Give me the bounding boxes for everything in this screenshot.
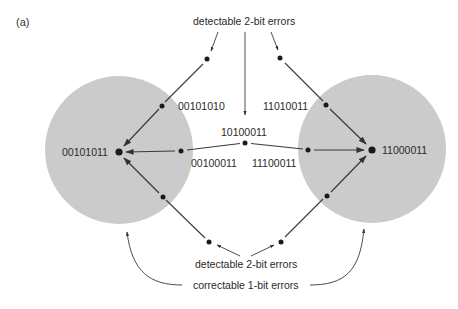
neighbor-left-middle-label: 00100011 <box>191 158 237 169</box>
edge-center-right <box>251 144 303 150</box>
node-left-middle <box>179 149 184 154</box>
node-right-middle <box>306 148 311 153</box>
edge-bottomright-outer <box>285 199 323 237</box>
annotation-bottom-correctable: correctable 1-bit errors <box>193 280 299 291</box>
node-center <box>243 141 248 146</box>
node-left-upper <box>160 104 165 109</box>
annotation-top-detectable: detectable 2-bit errors <box>193 16 295 27</box>
pointer-correctable-right <box>310 229 364 285</box>
node-outer-topleft <box>205 57 210 62</box>
node-outer-topright <box>278 56 283 61</box>
neighbor-right-upper-label: 11010011 <box>263 101 308 112</box>
edge-center-left <box>187 144 240 151</box>
codeword-left-label: 00101011 <box>62 147 108 158</box>
node-right-lower <box>325 194 330 199</box>
panel-label: (a) <box>16 17 29 28</box>
neighbor-center-label: 10100011 <box>221 127 267 138</box>
pointer-top-right <box>271 32 278 50</box>
edge-bottomleft-outer <box>166 200 205 238</box>
node-outer-bottomright <box>279 240 284 245</box>
codeword-right-label: 11000011 <box>382 145 427 156</box>
pointer-correctable-left <box>127 232 182 285</box>
annotation-bottom-detectable: detectable 2-bit errors <box>195 259 297 270</box>
codeword-node-left <box>115 148 122 155</box>
node-outer-bottomleft <box>207 240 212 245</box>
node-left-lower <box>161 195 166 200</box>
node-right-upper <box>324 103 329 108</box>
pointer-top-left <box>211 32 218 51</box>
edge-topright-outer <box>285 63 323 101</box>
edge-topleft-outer <box>165 64 203 102</box>
codeword-node-right <box>368 146 375 153</box>
neighbor-right-middle-label: 11100011 <box>252 158 296 169</box>
pointer-bottom-left <box>217 245 240 256</box>
neighbor-left-upper-label: 00101010 <box>178 101 225 112</box>
pointer-bottom-right <box>251 245 274 256</box>
